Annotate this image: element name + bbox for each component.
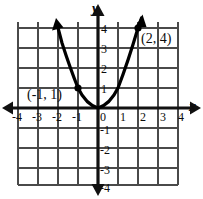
y-axis-label: y bbox=[92, 2, 98, 16]
x-tick-label-2: 2 bbox=[140, 111, 146, 123]
y-tick-label--2: -2 bbox=[100, 144, 110, 156]
y-tick-label--4: -4 bbox=[100, 182, 110, 194]
point-label-2-4: (2, 4) bbox=[141, 32, 171, 46]
y-tick-label-1: 1 bbox=[101, 83, 107, 95]
y-tick-label-4: 4 bbox=[101, 23, 107, 35]
x-tick-label--3: -3 bbox=[32, 111, 42, 123]
origin-tick-label: 0 bbox=[100, 111, 106, 123]
x-tick-label-1: 1 bbox=[120, 111, 126, 123]
x-axis-label: x bbox=[189, 100, 196, 114]
x-tick-label--2: -2 bbox=[52, 111, 62, 123]
y-tick-label-3: 3 bbox=[101, 43, 107, 55]
parabola-coordinate-graph: -4 -3 -2 -1 1 2 3 4 0 4 3 2 1 -1 -2 -3 -… bbox=[0, 0, 203, 199]
point-marker-neg1-1 bbox=[74, 84, 81, 91]
y-tick-label--1: -1 bbox=[100, 124, 110, 136]
x-tick-label-4: 4 bbox=[178, 111, 184, 123]
y-tick-label-2: 2 bbox=[101, 63, 107, 75]
x-tick-label-3: 3 bbox=[160, 111, 166, 123]
x-tick-label--1: -1 bbox=[72, 111, 82, 123]
y-tick-label--3: -3 bbox=[100, 164, 110, 176]
plotted-points bbox=[74, 24, 141, 91]
point-label-neg1-1: (-1, 1) bbox=[27, 88, 62, 102]
x-tick-label--4: -4 bbox=[12, 111, 22, 123]
